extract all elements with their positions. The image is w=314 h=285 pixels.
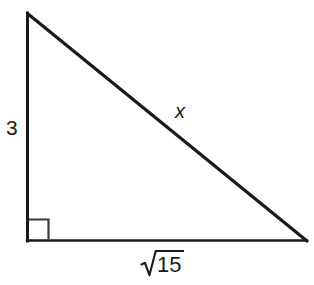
label-vertical-leg: 3	[6, 117, 18, 138]
triangle-drawing	[0, 0, 314, 285]
radical-expression: 15	[141, 250, 184, 277]
right-angle-square-icon	[29, 220, 49, 240]
label-base-leg: 15	[141, 250, 184, 277]
radical-sign-icon	[141, 250, 156, 276]
triangle-side-hypotenuse	[28, 14, 308, 242]
radicand-value: 15	[155, 250, 184, 277]
label-hypotenuse: x	[175, 101, 185, 121]
triangle-figure: 3 x 15	[0, 0, 314, 285]
